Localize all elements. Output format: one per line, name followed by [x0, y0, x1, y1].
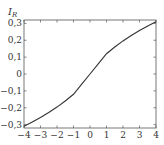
data-line: [24, 22, 156, 127]
x-tick-label: 4: [153, 130, 159, 140]
x-tick-label: 0: [87, 130, 93, 140]
x-axis: −4−3−2−101234: [17, 20, 159, 140]
x-tick-label: −1: [67, 130, 80, 140]
x-tick-label: 3: [137, 130, 143, 140]
y-tick-label: 0: [16, 69, 22, 79]
y-axis-label: IR: [7, 6, 18, 19]
x-tick-label: −2: [50, 130, 63, 140]
y-tick-label: −0,1: [0, 86, 22, 96]
y-tick-label: 0,1: [8, 52, 22, 62]
x-tick-label: 2: [120, 130, 126, 140]
x-tick-label: −4: [17, 130, 31, 140]
y-tick-label: 0,2: [8, 35, 22, 45]
y-tick-label: −0,3: [0, 120, 22, 130]
x-tick-label: 1: [104, 130, 110, 140]
y-tick-label: −0,2: [0, 103, 22, 113]
chart: −4−3−2−101234 −0,3−0,2−0,100,10,20,3 IR: [0, 0, 164, 145]
y-tick-label: 0,3: [8, 18, 23, 28]
x-tick-label: −3: [34, 130, 48, 140]
